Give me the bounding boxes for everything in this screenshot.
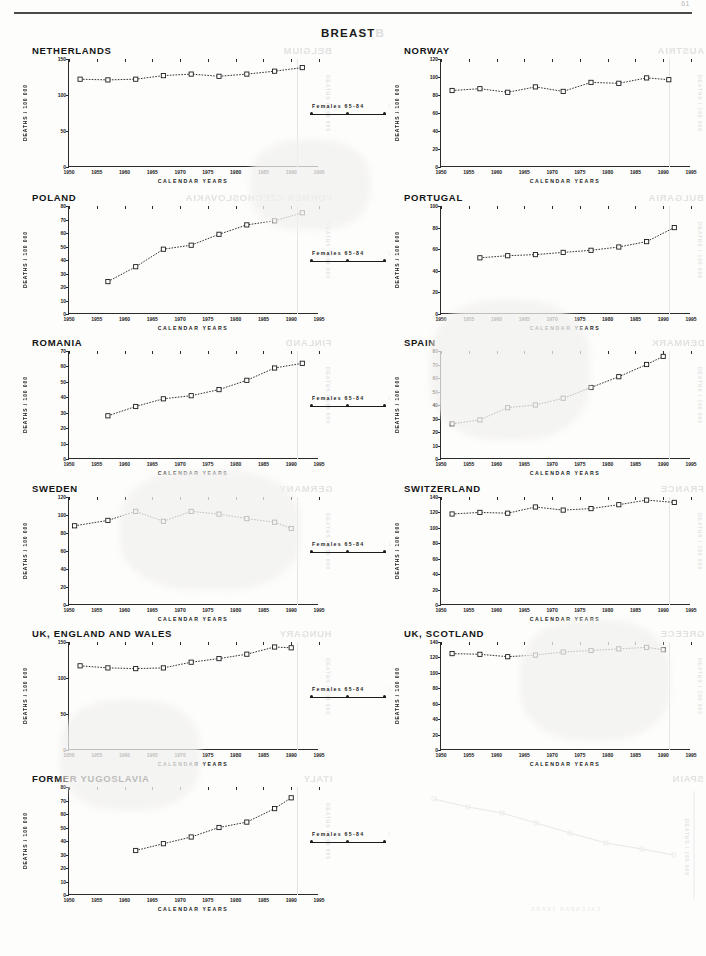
data-point-marker bbox=[217, 74, 221, 78]
legend-label: Females 65-84 bbox=[310, 103, 386, 109]
data-point-marker bbox=[645, 76, 649, 80]
data-point-marker bbox=[506, 254, 510, 258]
data-point-marker bbox=[617, 245, 621, 249]
legend-marker bbox=[310, 259, 313, 262]
legend-marker bbox=[310, 112, 313, 115]
y-tick-label: 100 bbox=[430, 203, 438, 209]
x-tick-label: 1960 bbox=[491, 461, 502, 467]
legend-sample-line bbox=[310, 549, 386, 555]
ghost-legend-fragment: 1 bbox=[388, 831, 392, 837]
y-tick-mark bbox=[66, 314, 69, 315]
x-tick-label: 1975 bbox=[202, 607, 213, 613]
legend-marker bbox=[383, 259, 386, 262]
y-tick-label: 100 bbox=[58, 92, 66, 98]
legend-marker bbox=[383, 112, 386, 115]
y-axis-label: DEATHS / 100 000 bbox=[22, 206, 28, 314]
x-tick-label: 1995 bbox=[685, 752, 696, 758]
chart-panel-norway: NORWAYAUSTRIA020406080100120195019551960… bbox=[396, 45, 706, 193]
legend-marker bbox=[346, 550, 349, 553]
x-tick-label: 1970 bbox=[547, 607, 558, 613]
x-axis-label: CALENDAR YEARS bbox=[68, 906, 318, 912]
x-tick-label: 1995 bbox=[313, 752, 324, 758]
data-point-marker bbox=[189, 72, 193, 76]
y-axis-label: DEATHS / 100 000 bbox=[22, 787, 28, 895]
data-point-marker bbox=[245, 652, 249, 656]
data-point-marker bbox=[73, 524, 77, 528]
legend-sample-line bbox=[310, 111, 386, 117]
x-tick-label: 1955 bbox=[91, 169, 102, 175]
data-point-marker bbox=[217, 232, 221, 236]
y-tick-label: 120 bbox=[430, 509, 438, 515]
x-tick-label: 1965 bbox=[147, 316, 158, 322]
data-series-layer bbox=[441, 497, 691, 605]
x-tick-label: 1970 bbox=[175, 897, 186, 903]
scanned-page: 61 BREASTB NETHERLANDSBELGIUM05010015019… bbox=[0, 0, 706, 956]
data-point-marker bbox=[300, 361, 304, 365]
data-point-marker bbox=[245, 223, 249, 227]
x-tick-label: 1985 bbox=[258, 752, 269, 758]
x-tick-label: 1955 bbox=[463, 752, 474, 758]
data-point-marker bbox=[161, 666, 165, 670]
data-point-marker bbox=[617, 81, 621, 85]
legend-row-4: Females 65-841 bbox=[310, 541, 386, 555]
data-point-marker bbox=[273, 645, 277, 649]
x-tick-label: 1980 bbox=[230, 607, 241, 613]
x-tick-label: 1950 bbox=[63, 169, 74, 175]
x-tick-label: 1995 bbox=[685, 607, 696, 613]
chart-title: UK, ENGLAND AND WALES bbox=[32, 628, 172, 639]
x-tick-label: 1990 bbox=[658, 752, 669, 758]
ghost-x-axis-label: CALENDAR YEARS bbox=[440, 906, 690, 912]
paper-texture-blob bbox=[60, 700, 200, 810]
data-point-marker bbox=[106, 78, 110, 82]
x-tick-label: 1975 bbox=[202, 752, 213, 758]
x-tick-label: 1980 bbox=[230, 897, 241, 903]
x-tick-label: 1990 bbox=[286, 607, 297, 613]
data-point-marker bbox=[667, 78, 671, 82]
x-tick-label: 1975 bbox=[574, 607, 585, 613]
x-tick-label: 1990 bbox=[286, 461, 297, 467]
y-axis-label: DEATHS / 100 000 bbox=[394, 351, 400, 459]
chart-title: NETHERLANDS bbox=[32, 45, 111, 56]
y-tick-label: 100 bbox=[430, 670, 438, 676]
x-tick-label: 1980 bbox=[230, 316, 241, 322]
y-tick-mark bbox=[66, 895, 69, 896]
chart-title: PORTUGAL bbox=[404, 192, 463, 203]
x-tick-label: 1985 bbox=[258, 607, 269, 613]
x-tick-label: 1980 bbox=[602, 461, 613, 467]
legend-marker bbox=[383, 404, 386, 407]
x-tick-label: 1990 bbox=[286, 316, 297, 322]
data-point-marker bbox=[106, 666, 110, 670]
x-tick-label: 1990 bbox=[658, 461, 669, 467]
y-axis-label: DEATHS / 100 000 bbox=[394, 59, 400, 167]
ghost-chart-title: HUNGARY bbox=[279, 628, 332, 639]
y-axis-label: DEATHS / 100 000 bbox=[22, 642, 28, 750]
x-tick-label: 1980 bbox=[602, 169, 613, 175]
ghost-y-axis-label: DEATHS / 100 000 bbox=[697, 75, 703, 132]
x-tick-label: 1960 bbox=[119, 897, 130, 903]
x-tick-label: 1990 bbox=[658, 607, 669, 613]
data-point-marker bbox=[478, 256, 482, 260]
x-tick-label: 1995 bbox=[685, 169, 696, 175]
data-point-marker bbox=[478, 510, 482, 514]
data-point-marker bbox=[533, 505, 537, 509]
ghost-y-axis-label: DEATHS / 100 000 bbox=[697, 367, 703, 424]
x-tick-label: 1950 bbox=[63, 897, 74, 903]
x-tick-label: 1950 bbox=[435, 752, 446, 758]
data-series-layer bbox=[441, 206, 691, 314]
x-tick-mark bbox=[691, 497, 692, 500]
x-tick-label: 1960 bbox=[119, 607, 130, 613]
data-point-marker bbox=[300, 66, 304, 70]
x-axis-label: CALENDAR YEARS bbox=[68, 325, 318, 331]
chart-title: SWEDEN bbox=[32, 483, 78, 494]
data-point-marker bbox=[478, 87, 482, 91]
y-tick-mark bbox=[438, 750, 441, 751]
x-tick-label: 1965 bbox=[147, 897, 158, 903]
x-tick-label: 1975 bbox=[202, 169, 213, 175]
chart-title: NORWAY bbox=[404, 45, 450, 56]
x-tick-label: 1975 bbox=[202, 461, 213, 467]
data-point-marker bbox=[134, 848, 138, 852]
data-point-marker bbox=[134, 265, 138, 269]
legend-marker bbox=[383, 550, 386, 553]
data-point-marker bbox=[273, 69, 277, 73]
chart-panel-romania: ROMANIAFINLAND01020304050607019501955196… bbox=[24, 337, 334, 485]
